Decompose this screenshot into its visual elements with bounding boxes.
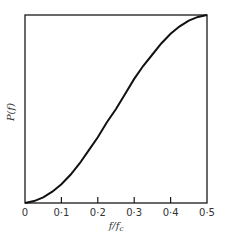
x-axis-label: f/fc <box>108 220 124 233</box>
x-tick-label: 0 <box>22 207 28 218</box>
y-axis-label: P(f) <box>5 103 16 122</box>
data-curve <box>25 15 207 203</box>
chart: 00·10·20·30·40·5 P(f) f/fc <box>0 0 228 239</box>
x-tick-label: 0·2 <box>90 207 106 218</box>
x-tick-label: 0·1 <box>53 207 69 218</box>
x-tick-label: 0·5 <box>199 207 215 218</box>
x-ticks <box>61 197 170 203</box>
x-tick-label: 0·4 <box>163 207 179 218</box>
x-tick-label: 0·3 <box>126 207 142 218</box>
x-tick-labels: 00·10·20·30·40·5 <box>22 207 215 218</box>
